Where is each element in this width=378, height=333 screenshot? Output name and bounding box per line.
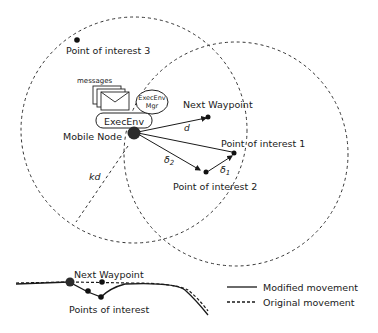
movement-diagram: Point of interest 3 messages ExecEnv Mgr… xyxy=(0,0,378,333)
execenv-mgr-label-line2: Mgr xyxy=(146,102,159,110)
next-waypoint-dot xyxy=(206,115,211,120)
bottom-poi-label: Points of interest xyxy=(69,304,149,315)
kd-label: kd xyxy=(89,171,102,182)
d-label: d xyxy=(184,123,190,133)
legend-original-label: Original movement xyxy=(263,297,355,308)
poi2-dot xyxy=(204,170,209,175)
mobile-node-label: Mobile Node xyxy=(63,131,122,142)
poi1-dot xyxy=(232,151,237,156)
next-waypoint-label: Next Waypoint xyxy=(183,99,253,110)
traj-poi-dot-1 xyxy=(85,288,91,294)
legend-modified-label: Modified movement xyxy=(263,282,358,293)
delta2-label: δ2 xyxy=(164,154,175,167)
traj-next-waypoint-dot xyxy=(99,279,105,285)
kd-radius-line xyxy=(76,146,128,222)
poi1-label: Point of interest 1 xyxy=(221,138,305,149)
execenv-mgr-label-line1: ExecEnv xyxy=(138,94,166,102)
messages-label: messages xyxy=(77,77,112,85)
bottom-next-waypoint-label: Next Waypoint xyxy=(74,269,144,280)
execenv-label: ExecEnv xyxy=(104,116,144,127)
delta1-label: δ1 xyxy=(220,164,230,177)
poi2-label: Point of interest 2 xyxy=(173,181,257,192)
poi3-dot xyxy=(74,37,80,43)
messages-envelope-icon xyxy=(93,86,129,110)
poi3-label: Point of interest 3 xyxy=(66,45,150,56)
mobile-node xyxy=(128,127,141,140)
legend: Modified movement Original movement xyxy=(227,282,358,308)
traj-poi-dot-2 xyxy=(98,294,104,300)
